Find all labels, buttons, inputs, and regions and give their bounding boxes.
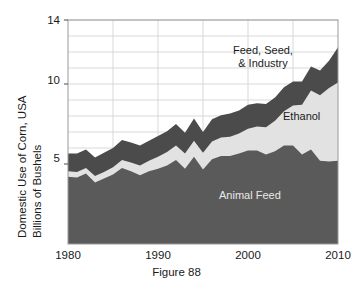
y-tick-label-5: 5 <box>38 152 60 164</box>
y-tick-label-14: 14 <box>38 14 60 26</box>
x-tick-label-1980: 1980 <box>48 249 88 261</box>
y-axis-label-line1: Domestic Use of Corn, USA <box>16 95 28 238</box>
x-tick-label-2000: 2000 <box>228 249 268 261</box>
annotation-ethanol: Ethanol <box>283 110 320 123</box>
x-tick-label-1990: 1990 <box>138 249 178 261</box>
y-tick-label-10: 10 <box>38 74 60 86</box>
figure-88: Domestic Use of Corn, USA Billions of Bu… <box>0 0 353 287</box>
annotation-animal-feed: Animal Feed <box>219 189 281 202</box>
annotation-feed-seed-industry-line1: Feed, Seed, <box>233 44 293 57</box>
annotation-feed-seed-industry-line2: & Industry <box>233 57 293 70</box>
y-axis-tick-marks <box>64 20 68 164</box>
stacked-area-chart <box>0 0 353 287</box>
annotation-feed-seed-industry: Feed, Seed, & Industry <box>233 44 293 69</box>
x-tick-label-2010: 2010 <box>318 249 353 261</box>
figure-caption: Figure 88 <box>0 266 353 278</box>
